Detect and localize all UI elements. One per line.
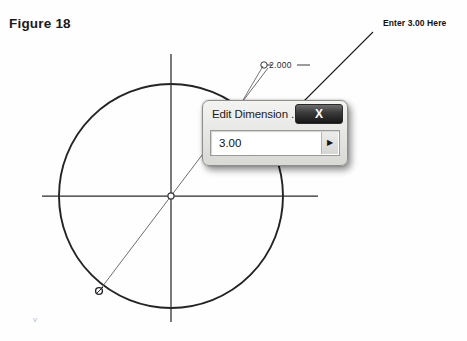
dimension-input[interactable]: [211, 132, 319, 154]
figure-screenshot: Figure 18 Enter 3.00 Here 2.000 v: [0, 0, 467, 341]
triangle-right-icon: ▶: [327, 139, 333, 147]
edit-dimension-dialog[interactable]: Edit Dimension ... X ▶: [202, 100, 348, 166]
center-point-marker: [168, 193, 174, 199]
dialog-body: ▶: [210, 130, 340, 158]
dialog-titlebar[interactable]: Edit Dimension ... X: [203, 101, 347, 127]
sketch-canvas: [0, 0, 467, 341]
dimension-origin-marker: [261, 62, 267, 68]
dialog-title: Edit Dimension ...: [212, 108, 300, 120]
dropdown-button[interactable]: ▶: [321, 132, 338, 154]
dimension-input-wrap[interactable]: ▶: [210, 130, 340, 156]
close-button[interactable]: X: [295, 104, 343, 124]
close-icon: X: [315, 108, 323, 120]
